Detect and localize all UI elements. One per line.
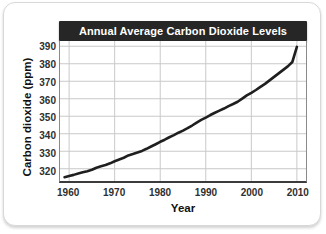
- x-axis-title: Year: [59, 202, 307, 214]
- plot-area: [59, 41, 307, 183]
- x-tick-label: 2010: [278, 187, 318, 198]
- figure-card: Annual Average Carbon Dioxide Levels 320…: [3, 2, 321, 226]
- chart-title: Annual Average Carbon Dioxide Levels: [79, 25, 287, 37]
- x-tick-label: 1960: [48, 187, 88, 198]
- x-tick-label: 1970: [94, 187, 134, 198]
- y-axis-title: Carbon dioxide (ppm): [21, 42, 33, 192]
- data-series-line: [60, 41, 306, 181]
- x-tick-label: 2000: [232, 187, 272, 198]
- chart-title-bar: Annual Average Carbon Dioxide Levels: [59, 21, 307, 41]
- x-axis-tick-labels: 196019701980199020002010: [59, 187, 307, 201]
- x-tick-label: 1980: [140, 187, 180, 198]
- x-tick-label: 1990: [186, 187, 226, 198]
